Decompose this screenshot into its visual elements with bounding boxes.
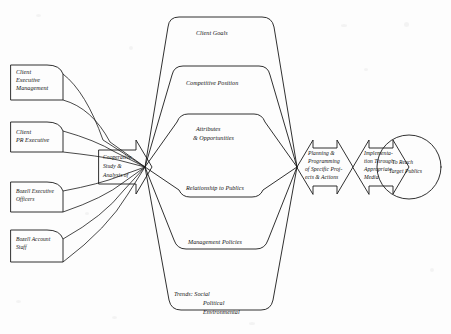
input-label-line-0: Client Executive Management [15,69,49,91]
study-topic-management-policies[interactable]: Management Policies [145,167,297,249]
stage-label-0: Planning & Programming of Specific Proj-… [305,150,344,180]
diagram-page: Client Executive Management Client PR Ex… [0,0,451,334]
study-topic-competitive-position[interactable]: Competitive Position [145,66,297,167]
study-topic-client-goals[interactable]: Client Goals [145,17,297,167]
stage-planning-programming[interactable]: Planning & Programming of Specific Proj-… [297,140,353,194]
input-box-client-pr-executive[interactable]: Client PR Executive [11,122,145,167]
study-topic-label-1: Competitive Position [186,80,238,86]
study-topic-label-3: Relationship to Publics [185,185,245,191]
study-topic-label-4: Management Policies [187,239,242,245]
study-topic-label-0: Client Goals [196,30,228,36]
study-topic-relationship-to-publics[interactable]: Relationship to Publics [145,167,297,197]
hub-label: Cooperative Study & Analysis of [102,154,133,178]
outcome-label: To Reach Target Publics [389,159,422,174]
input-label-line-1: Client PR Executive [15,129,49,143]
study-topic-attributes-opportunities[interactable]: Attributes & Opportunities [145,114,297,167]
study-topics-group: Client Goals Competitive Position Attrib… [145,17,297,315]
stage-implementation[interactable]: Implementa- tion Through Appropriate Med… [353,140,409,194]
input-label-line-2: Bozell Executive Officers [16,188,55,202]
input-group: Client Executive Management Client PR Ex… [11,65,145,262]
process-flow-diagram: Client Executive Management Client PR Ex… [0,0,451,334]
input-label-line-3: Bozell Account Staff [16,236,52,250]
study-topic-label-5: Trends: Social Political Environmental [174,291,240,315]
study-topic-label-2: Attributes & Opportunities [193,126,234,141]
